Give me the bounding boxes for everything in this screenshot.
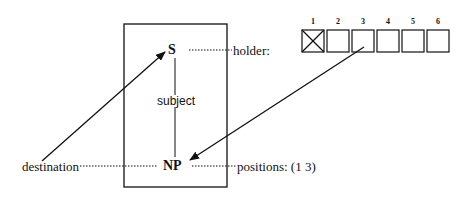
holder-slots [302,30,449,52]
slot-5 [402,30,424,52]
arrow-destination-to-s [42,52,165,161]
node-np: NP [163,159,182,173]
holder-label: holder: [233,44,270,57]
slot-number-6: 6 [427,18,449,26]
edge-label-subject: subject [156,95,196,107]
destination-label: destination [22,160,79,173]
positions-label: positions: (1 3) [237,160,316,173]
slot-number-4: 4 [377,18,399,26]
slot-3 [352,30,374,52]
slot-6 [427,30,449,52]
node-s: S [168,43,176,57]
slot-number-2: 2 [327,18,349,26]
slot-number-1: 1 [302,18,324,26]
slot-number-3: 3 [352,18,374,26]
arrow-slot3-to-np [190,47,364,160]
slot-number-5: 5 [402,18,424,26]
slot-4 [377,30,399,52]
slot-2 [327,30,349,52]
